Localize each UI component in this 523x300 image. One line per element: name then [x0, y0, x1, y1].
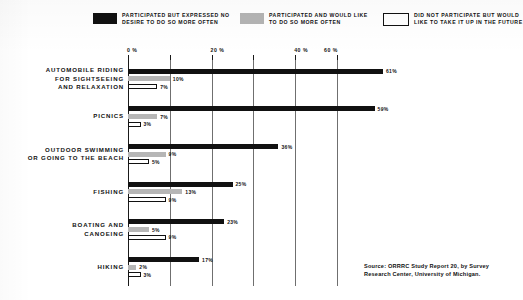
bar-value-label: 7% — [160, 114, 168, 120]
category-label: FISHING — [0, 188, 124, 196]
category-label-line: AND RELAXATION — [58, 83, 124, 90]
legend-label-participated-more-often: PARTICIPATED AND WOULD LIKE TO DO SO MOR… — [269, 12, 368, 27]
category-label-line: OR GOING TO THE BEACH — [28, 154, 124, 161]
bar-gray — [128, 227, 149, 232]
bar-gray — [128, 76, 170, 81]
legend-line-1: DID NOT PARTICIPATE BUT WOULD — [414, 12, 519, 18]
category-label-line: PICNICS — [93, 112, 124, 119]
bar-group: 59%7%3% — [128, 98, 337, 136]
category-label-line: OUTDOOR SWIMMING — [45, 146, 124, 153]
category-label-line: FISHING — [93, 188, 124, 195]
legend-item-participated-no-desire: PARTICIPATED BUT EXPRESSED NO DESIRE TO … — [93, 12, 230, 27]
category-label-line: BOATING AND — [72, 221, 124, 228]
chart-panel-left: 0 %20 %40 %60 %61%10%7%59%7%3%36%9%5%25%… — [0, 36, 345, 294]
legend-item-did-not-participate: DID NOT PARTICIPATE BUT WOULD LIKE TO TA… — [383, 12, 523, 27]
bar-value-label: 17% — [202, 257, 213, 263]
category-label: HIKING — [0, 263, 124, 271]
category-label: CAMPING — [345, 169, 523, 177]
bar-group: 17%2%3% — [128, 248, 337, 286]
bar-value-label: 2% — [139, 264, 147, 270]
x-axis-left: 0 %20 %40 %60 % — [128, 48, 337, 60]
bar-gray — [128, 152, 166, 157]
bar-white — [128, 84, 157, 89]
black-swatch-icon — [93, 13, 117, 24]
chart-panel-right: 0 %20 %12%2%2%12%5%5%11%4%9%5%2%10%5%1%4… — [345, 36, 523, 294]
bar-white — [128, 272, 141, 277]
gridline — [337, 60, 338, 286]
bar-value-label: 9% — [169, 151, 177, 157]
bar-value-label: 5% — [152, 227, 160, 233]
bar-value-label: 10% — [173, 76, 184, 82]
bar-gray — [128, 189, 182, 194]
bar-group: 61%10%7% — [128, 60, 337, 98]
category-label-line: AUTOMOBILE RIDING — [46, 66, 124, 73]
axis-tick-label: 60 % — [324, 47, 338, 53]
bar-black — [128, 257, 199, 262]
category-label-line: CANOEING — [84, 230, 124, 237]
chart-legend: PARTICIPATED BUT EXPRESSED NO DESIRE TO … — [0, 12, 523, 36]
category-label: BOATING ANDCANOEING — [0, 221, 124, 238]
bar-value-label: 9% — [169, 197, 177, 203]
bar-black — [128, 144, 278, 149]
legend-item-participated-more-often: PARTICIPATED AND WOULD LIKE TO DO SO MOR… — [240, 12, 368, 27]
legend-line-1: PARTICIPATED AND WOULD LIKE — [269, 12, 368, 18]
bar-black — [128, 182, 233, 187]
category-label: NATURE ANDBIRD WALKS — [345, 74, 523, 91]
category-label-line: HIKING — [98, 263, 124, 270]
bar-group: 25%13%9% — [128, 173, 337, 211]
bar-value-label: 3% — [144, 272, 152, 278]
category-label: HUNTING — [345, 124, 523, 132]
bar-white — [128, 197, 166, 202]
category-label: OUTDOOR SWIMMINGOR GOING TO THE BEACH — [0, 146, 124, 163]
bar-white — [128, 235, 166, 240]
category-label-line: FOR SIGHTSEEING — [55, 75, 124, 82]
bar-black — [128, 106, 375, 111]
category-label: HORSEBACK RIDING — [345, 214, 523, 222]
bar-value-label: 25% — [236, 181, 247, 187]
category-label: AUTOMOBILE RIDINGFOR SIGHTSEEINGAND RELA… — [0, 66, 124, 91]
bar-group: 36%9%5% — [128, 135, 337, 173]
legend-line-1: PARTICIPATED BUT EXPRESSED NO — [122, 12, 230, 18]
bar-value-label: 23% — [227, 219, 238, 225]
category-label: PICNICS — [0, 112, 124, 120]
bar-value-label: 9% — [169, 234, 177, 240]
plot-area-left: 0 %20 %40 %60 %61%10%7%59%7%3%36%9%5%25%… — [128, 48, 337, 286]
axis-tick-label: 20 % — [211, 47, 225, 53]
bar-group: 23%5%9% — [128, 211, 337, 249]
bar-white — [128, 122, 141, 127]
source-note: Source: ORRRC Study Report 20, by Survey… — [364, 262, 514, 278]
bar-value-label: 5% — [152, 159, 160, 165]
axis-tick-label: 40 % — [294, 47, 308, 53]
white-swatch-icon — [383, 13, 409, 26]
axis-tick-label: 0 % — [127, 47, 137, 53]
gray-swatch-icon — [240, 13, 264, 24]
bar-value-label: 7% — [160, 84, 168, 90]
bar-white — [128, 159, 149, 164]
legend-line-2: TO DO SO MORE OFTEN — [269, 19, 341, 25]
bar-gray — [128, 265, 136, 270]
bar-black — [128, 219, 224, 224]
legend-label-participated-no-desire: PARTICIPATED BUT EXPRESSED NO DESIRE TO … — [122, 12, 230, 27]
bar-gray — [128, 114, 157, 119]
bar-value-label: 13% — [185, 189, 196, 195]
bar-value-label: 36% — [281, 144, 292, 150]
legend-line-2: LIKE TO TAKE IT UP IN THE FUTURE — [414, 19, 523, 25]
legend-label-did-not-participate: DID NOT PARTICIPATE BUT WOULD LIKE TO TA… — [414, 12, 523, 27]
legend-line-2: DESIRE TO DO SO MORE OFTEN — [122, 19, 218, 25]
bar-value-label: 3% — [144, 121, 152, 127]
